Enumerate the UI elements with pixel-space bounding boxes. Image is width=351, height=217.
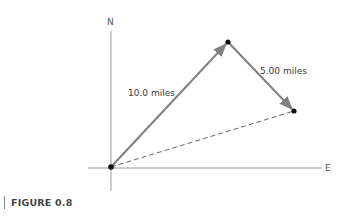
caption-bar <box>4 196 5 209</box>
vector-10-miles <box>111 44 226 167</box>
origin-point <box>108 164 114 170</box>
vector-diagram: N E 10.0 miles 5.00 miles <box>0 0 351 217</box>
caption-text: FIGURE 0.8 <box>11 197 72 208</box>
figure-caption: FIGURE 0.8 <box>4 196 72 209</box>
vector-1-label: 10.0 miles <box>128 88 175 98</box>
vector-2-label: 5.00 miles <box>260 66 307 76</box>
east-label: E <box>325 163 331 173</box>
north-label: N <box>107 17 114 27</box>
point-1 <box>225 39 230 44</box>
point-2 <box>291 108 296 113</box>
